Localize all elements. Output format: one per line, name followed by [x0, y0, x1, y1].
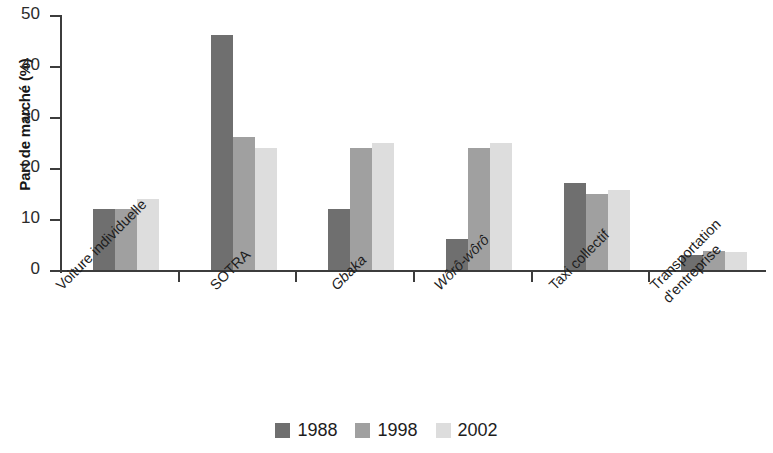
y-tick-label: 0 [0, 259, 40, 279]
legend: 198819982002 [0, 420, 773, 441]
y-tick-label: 30 [0, 106, 40, 126]
bar [211, 35, 233, 270]
bar [490, 143, 512, 271]
y-tick-mark [50, 117, 60, 119]
bar-chart-figure: Part de marché (%) 01020304050 Voiture i… [0, 0, 773, 453]
legend-label: 1998 [377, 420, 417, 441]
bar [608, 190, 630, 270]
y-tick-mark [50, 270, 60, 272]
legend-item[interactable]: 1998 [355, 420, 417, 441]
y-tick-mark [50, 219, 60, 221]
legend-swatch-icon [355, 423, 370, 438]
x-tick-mark [178, 272, 180, 282]
y-tick-mark [50, 15, 60, 17]
y-tick-label: 20 [0, 157, 40, 177]
x-tick-mark [413, 272, 415, 282]
legend-item[interactable]: 1988 [275, 420, 337, 441]
bar [350, 148, 372, 270]
bar [372, 143, 394, 271]
plot-area: 01020304050 [60, 15, 766, 272]
legend-swatch-icon [275, 423, 290, 438]
legend-label: 2002 [458, 420, 498, 441]
y-tick-label: 50 [0, 4, 40, 24]
y-tick-mark [50, 66, 60, 68]
bar [725, 252, 747, 270]
x-tick-mark [531, 272, 533, 282]
y-axis-line [60, 15, 62, 273]
x-tick-mark [295, 272, 297, 282]
legend-item[interactable]: 2002 [436, 420, 498, 441]
y-tick-label: 10 [0, 208, 40, 228]
y-tick-label: 40 [0, 55, 40, 75]
bar [255, 148, 277, 270]
legend-label: 1988 [297, 420, 337, 441]
legend-swatch-icon [436, 423, 451, 438]
y-tick-mark [50, 168, 60, 170]
